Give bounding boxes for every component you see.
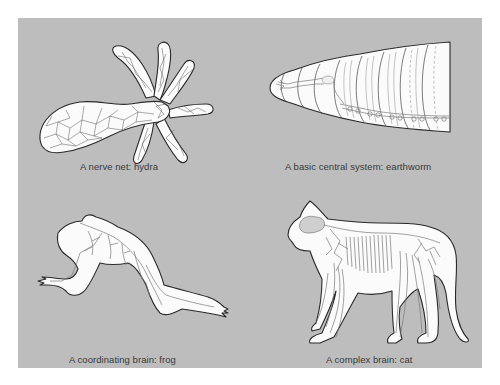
figure-panel: A nerve net: hydra <box>18 18 482 368</box>
cat-figure: A complex brain: cat <box>250 193 482 368</box>
frog-illustration <box>18 193 250 368</box>
hydra-figure: A nerve net: hydra <box>18 18 250 193</box>
caption-cat: A complex brain: cat <box>326 354 413 365</box>
caption-frog: A coordinating brain: frog <box>69 354 176 365</box>
frog-figure: A coordinating brain: frog <box>18 193 250 368</box>
caption-earthworm: A basic central system: earthworm <box>285 161 431 172</box>
earthworm-figure: A basic central system: earthworm <box>250 18 482 193</box>
cat-illustration <box>250 193 482 368</box>
caption-hydra: A nerve net: hydra <box>80 161 158 172</box>
